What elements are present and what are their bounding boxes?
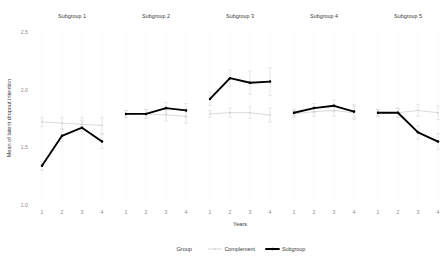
series-line-subgroup: [42, 128, 102, 166]
x-axis-tick-label: 2: [313, 209, 316, 215]
faceted-line-chart: 1.01.52.02.5Mean of latent dropout inten…: [0, 0, 447, 261]
y-axis-tick-label: 1.5: [21, 144, 28, 150]
y-axis-tick-label: 1.0: [21, 202, 28, 208]
x-axis-tick-label: 4: [353, 209, 356, 215]
data-point-subgroup: [313, 107, 316, 110]
x-axis-tick-label: 4: [437, 209, 440, 215]
data-point-complement: [41, 121, 42, 122]
data-point-subgroup: [377, 111, 380, 114]
data-point-subgroup: [61, 135, 64, 138]
data-point-complement: [417, 110, 418, 111]
data-point-complement: [269, 114, 270, 115]
x-axis-tick-label: 4: [101, 209, 104, 215]
data-point-subgroup: [209, 98, 212, 101]
data-point-subgroup: [397, 111, 400, 114]
facet-panel: Subgroup 31234: [208, 13, 272, 215]
data-point-complement: [229, 112, 230, 113]
facet-panel: Subgroup 11234: [40, 13, 104, 215]
x-axis-tick-label: 3: [81, 209, 84, 215]
x-axis-tick-label: 1: [125, 209, 128, 215]
chart-root: 1.01.52.02.5Mean of latent dropout inten…: [0, 0, 447, 261]
data-point-subgroup: [41, 165, 44, 168]
data-point-subgroup: [165, 107, 168, 110]
data-point-subgroup: [101, 140, 104, 143]
x-axis-tick-label: 3: [333, 209, 336, 215]
data-point-subgroup: [145, 113, 148, 116]
data-point-subgroup: [417, 131, 420, 134]
legend: GroupComplementSubgroup: [176, 246, 305, 252]
legend-key-point[interactable]: [214, 248, 216, 250]
x-axis-tick-label: 4: [269, 209, 272, 215]
legend-title: Group: [176, 246, 192, 252]
series-line-subgroup: [378, 113, 438, 142]
x-axis-tick-label: 2: [145, 209, 148, 215]
facet-strip-label: Subgroup 5: [394, 13, 422, 19]
legend-key-point[interactable]: [271, 248, 274, 251]
x-axis-tick-label: 1: [377, 209, 380, 215]
x-axis-tick-label: 1: [209, 209, 212, 215]
x-axis-title: Years: [233, 221, 247, 227]
facet-strip-label: Subgroup 1: [58, 13, 86, 19]
x-axis-tick-label: 1: [293, 209, 296, 215]
data-point-complement: [249, 112, 250, 113]
facet-panel: Subgroup 41234: [292, 13, 356, 215]
data-point-complement: [101, 125, 102, 126]
y-axis-tick-label: 2.0: [21, 87, 28, 93]
series-line-complement: [210, 113, 270, 115]
facet-panel: Subgroup 21234: [124, 13, 188, 215]
x-axis-tick-label: 3: [417, 209, 420, 215]
data-point-subgroup: [269, 80, 272, 83]
x-axis-tick-label: 3: [249, 209, 252, 215]
series-line-subgroup: [210, 78, 270, 99]
data-point-subgroup: [249, 81, 252, 84]
data-point-subgroup: [353, 110, 356, 113]
x-axis-tick-label: 1: [41, 209, 44, 215]
y-axis-title: Mean of latent dropout intention: [6, 79, 12, 158]
x-axis-tick-label: 2: [229, 209, 232, 215]
data-point-subgroup: [185, 109, 188, 112]
x-axis-tick-label: 2: [397, 209, 400, 215]
x-axis-tick-label: 3: [165, 209, 168, 215]
data-point-complement: [209, 113, 210, 114]
data-point-subgroup: [229, 77, 232, 80]
facet-strip-label: Subgroup 4: [310, 13, 338, 19]
data-point-subgroup: [333, 105, 336, 108]
data-point-complement: [437, 112, 438, 113]
data-point-subgroup: [293, 111, 296, 114]
data-point-subgroup: [125, 113, 128, 116]
facet-panel: Subgroup 51234: [376, 13, 440, 215]
legend-entry-label: Subgroup: [282, 246, 305, 252]
data-point-subgroup: [437, 140, 440, 143]
facet-strip-label: Subgroup 2: [142, 13, 170, 19]
facet-strip-label: Subgroup 3: [226, 13, 254, 19]
x-axis-tick-label: 2: [61, 209, 64, 215]
y-axis-tick-label: 2.5: [21, 29, 28, 35]
series-line-complement: [42, 122, 102, 125]
series-line-subgroup: [126, 108, 186, 114]
data-point-complement: [61, 122, 62, 123]
legend-entry-label: Complement: [224, 246, 255, 252]
data-point-complement: [165, 114, 166, 115]
x-axis-tick-label: 4: [185, 209, 188, 215]
data-point-subgroup: [81, 126, 84, 129]
